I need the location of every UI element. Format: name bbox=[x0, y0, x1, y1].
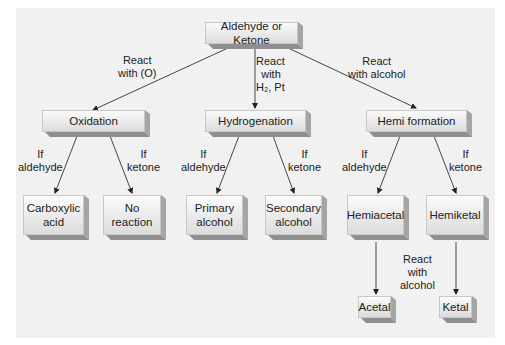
edge-root-oxidation bbox=[93, 48, 228, 110]
edge-label-react-with-alcohol: Reactwith alcohol bbox=[348, 55, 405, 81]
edge-label-if-aldehyde: Ifaldehyde bbox=[181, 148, 226, 174]
edge-label-react-with-h2-pt: ReactwithH₂, Pt bbox=[256, 55, 286, 94]
diagram-canvas: Aldehyde or Ketone Reactwith (O) Reactwi… bbox=[0, 0, 505, 345]
edge-label-if-aldehyde: Ifaldehyde bbox=[342, 148, 387, 174]
node-ketal: Ketal bbox=[439, 296, 477, 323]
node-secondary-alcohol: Secondaryalcohol bbox=[265, 195, 327, 240]
node-hemiacetal: Hemiacetal bbox=[347, 195, 409, 240]
edge-label-if-ketone: Ifketone bbox=[449, 148, 482, 174]
node-aldehyde-or-ketone: Aldehyde or Ketone bbox=[205, 22, 303, 49]
node-hydrogenation: Hydrogenation bbox=[205, 110, 311, 137]
node-hemi-formation: Hemi formation bbox=[366, 110, 472, 137]
node-primary-alcohol: Primaryalcohol bbox=[186, 195, 248, 240]
node-carboxylic-acid: Carboxylicacid bbox=[23, 195, 89, 240]
edge-label-if-ketone: Ifketone bbox=[127, 148, 160, 174]
node-oxidation: Oxidation bbox=[42, 110, 150, 137]
edge-label-react-with-o: Reactwith (O) bbox=[118, 54, 157, 80]
node-hemiketal: Hemiketal bbox=[426, 195, 489, 240]
connector-lines bbox=[0, 0, 505, 345]
edge-label-react-with-alcohol-final: Reactwithalcohol bbox=[400, 253, 435, 292]
edge-label-if-aldehyde: Ifaldehyde bbox=[18, 148, 63, 174]
node-no-reaction: Noreaction bbox=[103, 195, 166, 240]
node-acetal: Acetal bbox=[358, 296, 396, 323]
edge-label-if-ketone: Ifketone bbox=[288, 148, 321, 174]
